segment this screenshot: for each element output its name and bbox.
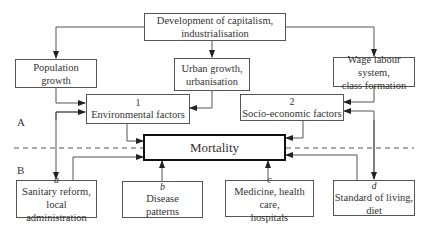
population-line1: Population — [33, 61, 79, 74]
box-letter: c — [267, 174, 271, 185]
box-letter: a — [54, 174, 59, 185]
factor-label: Environmental factors — [91, 108, 185, 121]
box-letter: d — [372, 180, 377, 191]
box-line2: local administration — [17, 198, 96, 224]
wage-labour-box: Wage labour system, class formation — [333, 57, 415, 87]
box-letter: b — [160, 181, 165, 192]
medicine-box: c Medicine, health care, hospitals — [225, 180, 314, 217]
factor-label: Socio-economic factors — [242, 107, 341, 120]
population-line2: growth — [41, 74, 71, 87]
section-label-a: A — [17, 116, 25, 128]
urban-line1: Urban growth, — [181, 62, 242, 75]
capitalism-line2: industrialisation — [181, 27, 249, 40]
environmental-factors-box: 1 Environmental factors — [86, 94, 190, 124]
urban-growth-box: Urban growth, urbanisation — [174, 58, 250, 91]
wage-line2: class formation — [342, 79, 406, 92]
box-line1: Sanitary reform, — [22, 185, 91, 198]
box-line2: hospitals — [251, 211, 288, 224]
capitalism-line1: Development of capitalism, — [157, 14, 273, 27]
standard-of-living-box: d Standard of living, diet — [333, 180, 415, 216]
urban-line2: urbanisation — [186, 75, 238, 88]
disease-patterns-box: b Disease patterns — [122, 181, 203, 218]
wage-line1: Wage labour system, — [334, 53, 414, 79]
box-line2: patterns — [146, 205, 179, 218]
box-line1: Standard of living, — [335, 191, 413, 204]
box-line1: Disease — [146, 192, 179, 205]
sanitary-reform-box: a Sanitary reform, local administration — [16, 180, 97, 218]
section-label-b: B — [17, 164, 24, 176]
factor-number: 1 — [136, 97, 141, 108]
capitalism-box: Development of capitalism, industrialisa… — [144, 13, 286, 41]
box-line2: diet — [366, 204, 382, 217]
factor-number: 2 — [290, 96, 295, 107]
mortality-label: Mortality — [190, 141, 239, 154]
socio-economic-factors-box: 2 Socio-economic factors — [240, 94, 344, 121]
mortality-box: Mortality — [143, 134, 286, 161]
population-growth-box: Population growth — [15, 59, 97, 88]
box-line1: Medicine, health care, — [226, 185, 313, 211]
